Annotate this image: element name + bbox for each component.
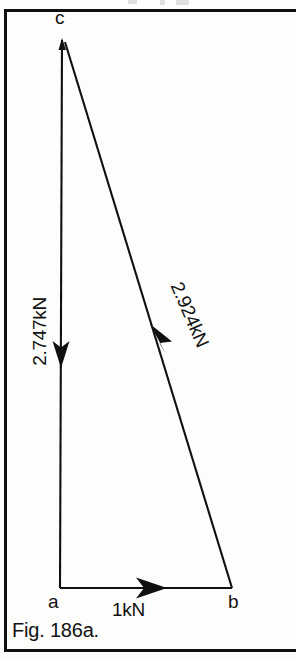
- force-label-2747kn: 2.747kN: [30, 284, 49, 380]
- vertex-label-c: c: [55, 8, 65, 27]
- vertex-label-a: a: [48, 592, 59, 611]
- figure-page: c a b 2.747kN 2.924kN 1kN Fig. 186a.: [0, 0, 296, 660]
- arrowhead-upleft-bc: [150, 324, 172, 354]
- vertex-label-b: b: [228, 592, 239, 611]
- force-line-ca: [60, 40, 62, 588]
- force-line-bc: [65, 42, 232, 588]
- figure-caption: Fig. 186a.: [12, 619, 99, 642]
- force-label-1kn: 1kN: [112, 600, 145, 619]
